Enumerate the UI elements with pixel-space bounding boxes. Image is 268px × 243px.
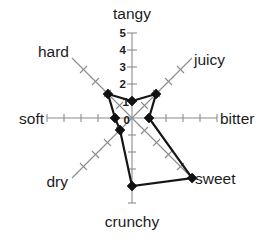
axis-label-hard: hard	[38, 43, 69, 60]
axis-label-bitter: bitter	[220, 110, 254, 127]
radial-tick-5: 5	[120, 27, 127, 39]
data-point-crunchy	[127, 181, 137, 191]
radial-tick-1: 1	[123, 96, 130, 108]
axis-spoke-juicy	[132, 58, 192, 118]
data-point-soft	[110, 113, 120, 123]
data-series	[103, 89, 197, 191]
axis-label-juicy: juicy	[193, 51, 225, 68]
series-markers	[103, 89, 197, 191]
radial-tick-2: 2	[120, 78, 126, 90]
axis-spoke-sweet	[132, 118, 192, 178]
radial-tick-4: 4	[120, 44, 127, 56]
axis-label-soft: soft	[19, 110, 45, 127]
axis-label-sweet: sweet	[195, 170, 236, 187]
series-polygon	[108, 94, 192, 186]
radial-tick-3: 3	[120, 61, 126, 73]
radar-chart: 5 4 3 2 1 0 tangy juicy bitter sweet cru…	[0, 0, 268, 243]
axis-label-tangy: tangy	[113, 5, 151, 22]
axis-label-dry: dry	[46, 173, 68, 190]
axis-label-crunchy: crunchy	[105, 213, 160, 230]
radial-tick-0: 0	[124, 114, 130, 126]
radar-chart-canvas: 5 4 3 2 1 0 tangy juicy bitter sweet cru…	[0, 0, 268, 243]
